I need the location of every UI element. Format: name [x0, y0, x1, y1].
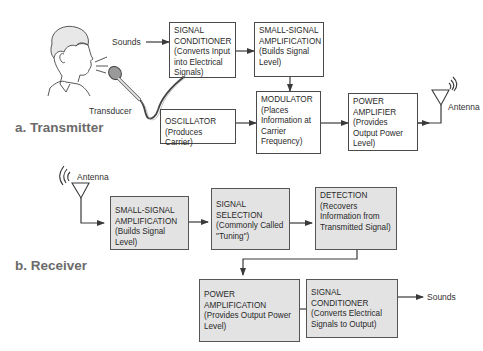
- block-desc: (Converts Input into Electrical Signals): [174, 47, 231, 79]
- receive-antenna-icon: [60, 166, 89, 198]
- rx-signal-selection-block: SIGNAL SELECTION (Commonly Called "Tunin…: [211, 188, 290, 250]
- speaking-person-icon: [48, 26, 108, 96]
- block-desc: (Provides Output Power Level): [204, 311, 295, 332]
- tx-oscillator-block: OSCILLATOR (Produces Carrier): [160, 109, 236, 144]
- tx-signal-conditioner-block: SIGNAL CONDITIONER (Converts Input into …: [169, 22, 236, 78]
- block-desc: (Recovers Information from Transmitted S…: [320, 202, 392, 234]
- block-desc: (Commonly Called "Tuning"): [216, 221, 285, 242]
- block-desc: (Produces Carrier): [165, 128, 231, 149]
- block-title: POWER AMPLIFIER: [353, 97, 413, 118]
- block-title: SIGNAL CONDITIONER: [174, 26, 231, 47]
- block-title: OSCILLATOR: [165, 117, 231, 128]
- receiver-section-label: b. Receiver: [15, 258, 87, 273]
- block-desc: (Converts Electrical Signals to Output): [311, 309, 393, 330]
- rx-power-amplification-block: POWER AMPLIFICATION (Provides Output Pow…: [199, 279, 300, 342]
- block-title: SMALL-SIGNAL AMPLIFICATION: [259, 26, 319, 47]
- tx-modulator-block: MODULATOR (Places Information at Carrier…: [256, 91, 321, 154]
- transmitter-input-label: Sounds: [112, 37, 141, 47]
- rx-small-signal-amplification-block: SMALL-SIGNAL AMPLIFICATION (Builds Signa…: [110, 196, 189, 250]
- block-desc: (Places Information at Carrier Frequency…: [261, 106, 316, 148]
- block-title: POWER AMPLIFICATION: [204, 290, 295, 311]
- receiver-antenna-label: Antenna: [77, 172, 109, 182]
- block-title: MODULATOR: [261, 95, 316, 106]
- tx-small-signal-amplification-block: SMALL-SIGNAL AMPLIFICATION (Builds Signa…: [254, 22, 324, 77]
- rx-signal-conditioner-block: SIGNAL CONDITIONER (Converts Electrical …: [306, 279, 398, 338]
- block-desc: (Provides Output Power Level): [353, 118, 413, 150]
- block-desc: (Builds Signal Level): [259, 47, 319, 68]
- receiver-output-label: Sounds: [427, 292, 456, 302]
- tx-power-amplifier-block: POWER AMPLIFIER (Provides Output Power L…: [348, 93, 418, 151]
- transmitter-section-label: a. Transmitter: [15, 120, 104, 135]
- transmit-antenna-icon: [432, 77, 457, 105]
- block-title: SMALL-SIGNAL AMPLIFICATION: [115, 206, 184, 227]
- block-desc: (Builds Signal Level): [115, 227, 184, 248]
- block-title: SIGNAL SELECTION: [216, 200, 285, 221]
- transmitter-antenna-label: Antenna: [448, 102, 480, 112]
- block-title: DETECTION: [320, 191, 392, 202]
- rx-detection-block: DETECTION (Recovers Information from Tra…: [315, 187, 397, 250]
- transducer-label: Transducer: [89, 106, 132, 116]
- block-title: SIGNAL CONDITIONER: [311, 288, 393, 309]
